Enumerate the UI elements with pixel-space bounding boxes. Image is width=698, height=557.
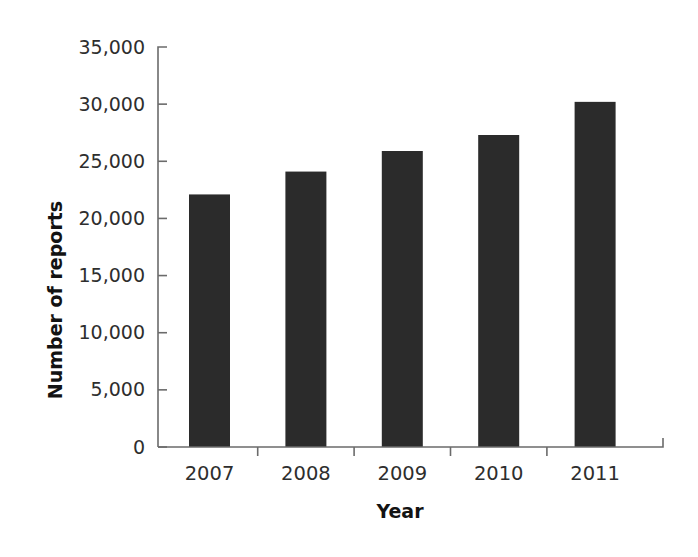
y-tick-label: 0 [133,436,145,458]
bar-2011 [575,102,616,447]
x-tick-label-2009: 2009 [377,462,427,485]
x-tick-label-2010: 2010 [474,462,524,485]
x-tick-label-2008: 2008 [281,462,331,485]
y-tick-label: 5,000 [91,378,145,400]
y-tick-label: 15,000 [79,264,145,286]
bar-2007 [189,194,230,447]
bar-chart-figure: 05,00010,00015,00020,00025,00030,00035,0… [0,0,698,557]
chart-canvas: 05,00010,00015,00020,00025,00030,00035,0… [0,0,698,557]
x-tick-label-2011: 2011 [570,462,620,485]
y-axis-title: Number of reports [44,201,66,399]
bar-2008 [285,172,326,447]
x-axis-title: Year [375,500,424,522]
y-tick-label: 20,000 [79,207,145,229]
y-tick-label: 35,000 [79,36,145,58]
y-tick-label: 30,000 [79,93,145,115]
y-tick-label: 25,000 [79,150,145,172]
bar-2010 [478,135,519,447]
x-tick-label-2007: 2007 [185,462,235,485]
bar-2009 [382,151,423,447]
y-tick-label: 10,000 [79,321,145,343]
